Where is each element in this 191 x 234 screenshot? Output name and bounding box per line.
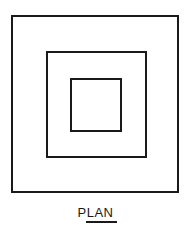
label-underline <box>86 221 117 223</box>
inner-square <box>70 78 122 132</box>
plan-label: PLAN <box>0 205 191 220</box>
